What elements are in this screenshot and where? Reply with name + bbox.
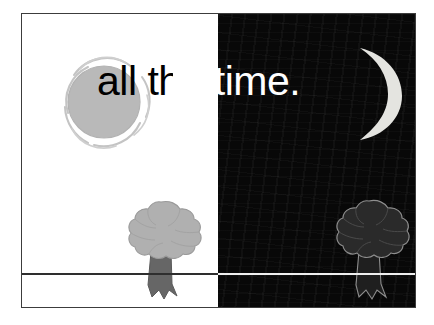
moon-icon bbox=[340, 46, 406, 142]
artwork-frame: all the time. all the time. bbox=[21, 13, 416, 308]
horizon-line-night bbox=[218, 273, 415, 275]
slide-canvas: all the time. all the time. bbox=[0, 0, 434, 325]
sun-icon bbox=[54, 51, 154, 151]
night-panel bbox=[218, 14, 415, 307]
horizon-line-day bbox=[22, 273, 218, 275]
tree-day bbox=[118, 200, 204, 304]
day-panel bbox=[22, 14, 218, 307]
tree-night bbox=[326, 198, 412, 304]
